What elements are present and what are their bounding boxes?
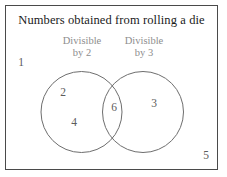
venn-diagram-figure: Numbers obtained from rolling a die Divi… [0,0,227,177]
set-label-divisible-by-2-line1: Divisible [50,35,114,47]
set-label-divisible-by-3: Divisible by 3 [112,35,176,59]
element-outside-5: 5 [198,149,214,161]
universal-set-rectangle [5,5,218,170]
element-in-divisible-by-2-lower: 4 [66,116,82,128]
diagram-title: Numbers obtained from rolling a die [5,13,218,28]
set-label-divisible-by-3-line1: Divisible [112,35,176,47]
element-in-intersection: 6 [106,101,122,113]
set-label-divisible-by-2: Divisible by 2 [50,35,114,59]
element-outside-1: 1 [13,56,29,68]
set-label-divisible-by-2-line2: by 2 [50,47,114,59]
set-label-divisible-by-3-line2: by 3 [112,47,176,59]
element-in-divisible-by-3: 3 [146,97,162,109]
element-in-divisible-by-2-upper: 2 [55,86,71,98]
